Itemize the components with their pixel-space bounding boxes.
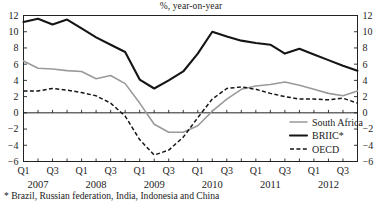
y-axis-label-left: −4 — [8, 140, 19, 151]
y-axis-label-right: 6 — [363, 59, 368, 70]
x-axis-year-label: 2010 — [202, 179, 223, 190]
y-axis-label-left: 6 — [14, 59, 19, 70]
y-axis-label-right: 4 — [363, 75, 368, 86]
x-axis-quarter-label: Q3 — [46, 165, 58, 176]
legend-label-briic: BRIIC* — [312, 130, 344, 141]
y-axis-label-right: 2 — [363, 91, 368, 102]
y-axis-label-left: 12 — [9, 10, 19, 21]
x-axis-quarter-label: Q1 — [192, 165, 204, 176]
y-axis-label-right: −4 — [363, 140, 374, 151]
y-axis-label-left: −2 — [8, 123, 19, 134]
x-axis-quarter-label: Q3 — [221, 165, 233, 176]
x-axis-year-label: 2011 — [260, 179, 281, 190]
x-axis-quarter-label: Q3 — [163, 165, 175, 176]
x-axis-year-label: 2008 — [86, 179, 107, 190]
y-axis-label-left: 10 — [9, 26, 19, 37]
x-axis-year-label: 2009 — [144, 179, 165, 190]
x-axis-year-label: 2007 — [28, 179, 49, 190]
x-axis-quarter-label: Q1 — [308, 165, 320, 176]
y-axis-label-right: 12 — [363, 10, 373, 21]
x-axis-year-label: 2012 — [318, 179, 339, 190]
x-axis-quarter-label: Q3 — [105, 165, 117, 176]
x-axis-quarter-label: Q1 — [75, 165, 87, 176]
chart-plot-area: 121210108866442200−2−2−4−4−6−6Q1Q3Q1Q3Q1… — [0, 0, 382, 207]
y-axis-label-left: 4 — [14, 75, 19, 86]
y-axis-label-right: 8 — [363, 42, 368, 53]
x-axis-quarter-label: Q3 — [337, 165, 349, 176]
y-axis-label-left: 8 — [14, 42, 19, 53]
y-axis-label-left: 0 — [14, 107, 19, 118]
series-line-briic — [24, 19, 358, 89]
chart-figure: %, year-on-year 121210108866442200−2−2−4… — [0, 0, 382, 207]
y-axis-label-left: 2 — [14, 91, 19, 102]
x-axis-quarter-label: Q3 — [279, 165, 291, 176]
y-axis-label-right: 10 — [363, 26, 373, 37]
x-axis-quarter-label: Q1 — [134, 165, 146, 176]
y-axis-label-right: 0 — [363, 107, 368, 118]
chart-footnote: * Brazil, Russian federation, India, Ind… — [4, 190, 219, 201]
x-axis-quarter-label: Q1 — [17, 165, 29, 176]
series-line-oecd — [24, 87, 358, 155]
plot-frame — [24, 16, 358, 162]
legend-label-south-africa: South Africa — [312, 117, 363, 128]
x-axis-quarter-label: Q1 — [250, 165, 262, 176]
legend-label-oecd: OECD — [312, 144, 339, 155]
y-axis-label-right: −6 — [363, 156, 374, 167]
y-axis-label-right: −2 — [363, 123, 374, 134]
